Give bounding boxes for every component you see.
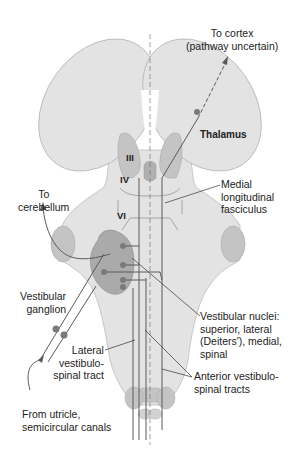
mlf-line3: fasciculus <box>221 203 274 216</box>
utricle-line1: From utricle, <box>22 408 111 421</box>
vn-line2: superior, lateral <box>200 323 282 336</box>
label-mlf: Medial longitudinal fasciculus <box>221 178 274 216</box>
label-lateral-vst: Lateral vestibulo- spinal tract <box>51 344 104 382</box>
label-thalamus: Thalamus <box>200 129 247 142</box>
vn-line3: (Deiters'), medial, <box>200 335 282 348</box>
label-from-utricle: From utricle, semicircular canals <box>22 408 111 433</box>
to-cortex-line2: (pathway uncertain) <box>186 40 278 53</box>
to-cerebellum-line2: cerebellum <box>18 201 69 214</box>
label-nucleus-iii: III <box>126 152 134 163</box>
vn-line4: spinal <box>200 348 282 361</box>
to-cortex-line1: To cortex <box>186 27 278 40</box>
to-cerebellum-line1: To <box>18 188 69 201</box>
lvst-line1: Lateral <box>51 344 104 357</box>
avst-line1: Anterior vestibulo- <box>194 370 279 383</box>
label-anterior-vst: Anterior vestibulo- spinal tracts <box>194 370 279 395</box>
utricle-line2: semicircular canals <box>22 421 111 434</box>
label-to-cortex: To cortex (pathway uncertain) <box>186 27 278 52</box>
ganglion-line2: ganglion <box>20 303 66 316</box>
mlf-line2: longitudinal <box>221 191 274 204</box>
label-nucleus-iv: IV <box>120 174 129 185</box>
label-vestibular-nuclei: Vestibular nuclei: superior, lateral (De… <box>200 310 282 360</box>
lvst-line3: spinal tract <box>51 369 104 382</box>
label-vestibular-ganglion: Vestibular ganglion <box>20 290 66 315</box>
ganglion-line1: Vestibular <box>20 290 66 303</box>
mlf-line1: Medial <box>221 178 274 191</box>
avst-line2: spinal tracts <box>194 383 279 396</box>
vn-line1: Vestibular nuclei: <box>200 310 282 323</box>
peduncle-right <box>221 226 245 262</box>
label-to-cerebellum: To cerebellum <box>18 188 69 213</box>
label-nucleus-vi: VI <box>117 210 126 221</box>
lvst-line2: vestibulo- <box>51 357 104 370</box>
